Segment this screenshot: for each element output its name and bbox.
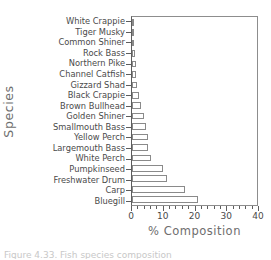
bar-row — [132, 101, 257, 111]
category-label-text: Pumpkinseed — [69, 165, 125, 173]
category-label-column: White CrappieTiger MuskyCommon ShinerRoc… — [16, 16, 128, 206]
x-axis-minor-tick — [233, 206, 234, 209]
bar-row — [132, 163, 257, 173]
x-axis-minor-tick — [150, 206, 151, 209]
category-label: Black Crappie — [16, 90, 128, 101]
x-axis-tick-label: 10 — [157, 211, 168, 221]
bar-row — [132, 121, 257, 131]
figure-horizontal-bar-chart: Species White CrappieTiger MuskyCommon S… — [0, 0, 271, 260]
category-label-text: Northern Pike — [69, 59, 125, 67]
x-axis-tick-label: 20 — [189, 211, 200, 221]
bar — [132, 155, 151, 162]
category-label: Brown Bullhead — [16, 101, 128, 112]
x-axis-title: % Composition — [131, 224, 258, 238]
bar-row — [132, 48, 257, 58]
bar — [132, 19, 134, 26]
bar — [132, 165, 163, 172]
x-axis-tick-label: 30 — [221, 211, 232, 221]
category-label: Common Shiner — [16, 37, 128, 48]
x-axis-tick-label: 40 — [252, 211, 263, 221]
bar — [132, 123, 146, 130]
bar-series — [132, 17, 257, 205]
y-axis-title: Species — [0, 16, 16, 206]
x-axis-minor-tick — [220, 206, 221, 209]
x-axis-tick-label: 0 — [128, 211, 134, 221]
bar-row — [132, 142, 257, 152]
category-label-text: Golden Shiner — [66, 112, 125, 120]
x-axis-tick-labels: 010203040 — [131, 211, 258, 223]
bar — [132, 82, 137, 89]
category-label: Pumpkinseed — [16, 164, 128, 175]
category-label: Tiger Musky — [16, 27, 128, 38]
category-label: Rock Bass — [16, 48, 128, 59]
x-axis-minor-tick — [169, 206, 170, 209]
category-label-text: White Crappie — [66, 17, 125, 25]
category-label-text: Common Shiner — [58, 38, 125, 46]
bar-row — [132, 194, 257, 204]
bar-row — [132, 17, 257, 27]
bar — [132, 40, 134, 47]
category-label-text: Tiger Musky — [75, 28, 125, 36]
bar — [132, 61, 136, 68]
x-axis-minor-tick — [137, 206, 138, 209]
x-axis-minor-tick — [245, 206, 246, 209]
category-label: Carp — [16, 185, 128, 196]
bar — [132, 102, 141, 109]
category-label: Channel Catfish — [16, 69, 128, 80]
bar — [132, 113, 144, 120]
bar-row — [132, 184, 257, 194]
category-label: White Perch — [16, 153, 128, 164]
category-label: White Crappie — [16, 16, 128, 27]
bar — [132, 144, 148, 151]
bar — [132, 50, 135, 57]
bar-row — [132, 111, 257, 121]
plot-area — [131, 16, 258, 206]
category-label: Golden Shiner — [16, 111, 128, 122]
x-axis-minor-tick — [182, 206, 183, 209]
x-axis-minor-tick — [252, 206, 253, 209]
x-axis-minor-tick — [156, 206, 157, 209]
category-label-text: Carp — [105, 186, 125, 194]
x-axis-minor-tick — [207, 206, 208, 209]
bar — [132, 134, 148, 141]
bar-row — [132, 80, 257, 90]
category-label-text: Freshwater Drum — [54, 176, 126, 184]
category-label-text: Smallmouth Bass — [53, 123, 125, 131]
category-label-text: Bluegill — [94, 197, 125, 205]
category-label: Gizzard Shad — [16, 79, 128, 90]
bar — [132, 196, 198, 203]
x-axis-minor-tick — [144, 206, 145, 209]
bar-row — [132, 38, 257, 48]
category-label-text: Brown Bullhead — [60, 102, 125, 110]
category-label-text: White Perch — [75, 154, 125, 162]
bar-row — [132, 69, 257, 79]
category-label: Yellow Perch — [16, 132, 128, 143]
x-axis-minor-tick — [239, 206, 240, 209]
bar — [132, 175, 167, 182]
category-label: Largemouth Bass — [16, 143, 128, 154]
bar-row — [132, 132, 257, 142]
bar — [132, 92, 139, 99]
x-axis-minor-tick — [188, 206, 189, 209]
y-axis-title-text: Species — [1, 85, 16, 137]
category-label: Freshwater Drum — [16, 174, 128, 185]
category-label-text: Gizzard Shad — [70, 81, 125, 89]
bar — [132, 186, 185, 193]
bar — [132, 29, 134, 36]
x-axis-minor-tick — [175, 206, 176, 209]
bar-row — [132, 27, 257, 37]
bar — [132, 71, 136, 78]
category-label-text: Rock Bass — [83, 49, 125, 57]
category-label: Smallmouth Bass — [16, 122, 128, 133]
category-label-text: Largemouth Bass — [53, 144, 125, 152]
bar-row — [132, 90, 257, 100]
x-axis-minor-tick — [201, 206, 202, 209]
category-label-text: Yellow Perch — [74, 133, 125, 141]
bar-row — [132, 153, 257, 163]
category-label: Bluegill — [16, 196, 128, 207]
x-axis-minor-tick — [214, 206, 215, 209]
bar-row — [132, 174, 257, 184]
bar-row — [132, 59, 257, 69]
category-label-text: Black Crappie — [68, 91, 125, 99]
category-label-text: Channel Catfish — [59, 70, 125, 78]
